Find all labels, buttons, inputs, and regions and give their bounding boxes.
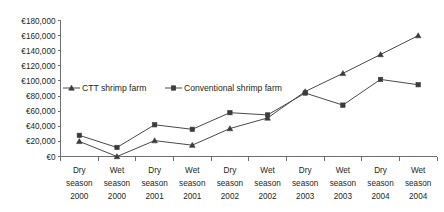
y-axis: €180,000€160,000€140,000€120,000€100,000… (21, 17, 60, 162)
triangle-marker-icon (378, 52, 384, 57)
x-tick-label: season (66, 179, 93, 188)
series-line (79, 36, 418, 157)
x-tick-label: season (104, 179, 131, 188)
square-marker-icon (190, 127, 194, 131)
square-marker-icon (115, 145, 119, 149)
x-tick-label: 2000 (108, 192, 127, 201)
legend-item: Conventional shrimp farm (165, 83, 282, 93)
x-tick-label: Dry (299, 166, 313, 175)
x-tick-label: 2000 (70, 192, 89, 201)
plot-area (77, 33, 421, 159)
x-tick-label: 2002 (221, 192, 240, 201)
x-tick-label: season (179, 179, 206, 188)
square-marker-icon (228, 110, 232, 114)
square-marker-icon (416, 83, 420, 87)
x-tick-label: Dry (374, 166, 388, 175)
x-tick-label: 2003 (296, 192, 315, 201)
x-tick-label: 2004 (409, 192, 428, 201)
series-triangle (77, 33, 421, 159)
x-tick-label: Wet (336, 166, 351, 175)
triangle-marker-icon (415, 33, 421, 38)
x-tick-label: 2003 (334, 192, 353, 201)
y-tick-label: €20,000 (26, 137, 56, 146)
x-tick-label: season (254, 179, 281, 188)
y-tick-label: €120,000 (21, 62, 56, 71)
y-tick-label: €0 (46, 153, 56, 162)
square-marker-icon (152, 123, 156, 127)
x-tick-label: 2004 (371, 192, 390, 201)
y-tick-label: €80,000 (26, 92, 56, 101)
square-marker-icon (171, 86, 175, 90)
triangle-marker-icon (77, 139, 83, 144)
x-tick-label: season (405, 179, 432, 188)
x-tick-label: Dry (73, 166, 87, 175)
shrimp-farm-profit-line-chart: €180,000€160,000€140,000€120,000€100,000… (0, 0, 444, 212)
square-marker-icon (378, 77, 382, 81)
x-tick-label: Wet (260, 166, 275, 175)
legend-item: CTT shrimp farm (63, 83, 146, 93)
x-tick-label: season (367, 179, 394, 188)
x-tick-label: Wet (185, 166, 200, 175)
x-tick-label: Wet (411, 166, 426, 175)
triangle-marker-icon (340, 71, 346, 76)
square-marker-icon (303, 91, 307, 95)
x-tick-label: Wet (110, 166, 125, 175)
y-tick-label: €60,000 (26, 107, 56, 116)
x-tick-label: 2001 (183, 192, 202, 201)
y-tick-label: €140,000 (21, 47, 56, 56)
y-tick-label: €160,000 (21, 32, 56, 41)
y-tick-label: €40,000 (26, 122, 56, 131)
x-tick-label: Dry (148, 166, 162, 175)
chart-canvas: €180,000€160,000€140,000€120,000€100,000… (0, 0, 444, 212)
chart-legend: CTT shrimp farmConventional shrimp farm (63, 83, 282, 93)
x-tick-label: season (330, 179, 357, 188)
x-tick-label: 2002 (258, 192, 277, 201)
legend-label: Conventional shrimp farm (184, 83, 282, 93)
x-tick-label: 2001 (146, 192, 165, 201)
x-tick-label: Dry (224, 166, 238, 175)
square-marker-icon (265, 113, 269, 117)
y-tick-label: €180,000 (21, 17, 56, 26)
x-tick-label: season (292, 179, 319, 188)
square-marker-icon (341, 103, 345, 107)
square-marker-icon (77, 133, 81, 137)
x-axis: Dryseason2000Wetseason2000Dryseason2001W… (61, 157, 438, 201)
x-tick-label: season (217, 179, 244, 188)
legend-label: CTT shrimp farm (82, 83, 146, 93)
x-tick-label: season (141, 179, 168, 188)
triangle-marker-icon (152, 138, 158, 143)
y-tick-label: €100,000 (21, 77, 56, 86)
